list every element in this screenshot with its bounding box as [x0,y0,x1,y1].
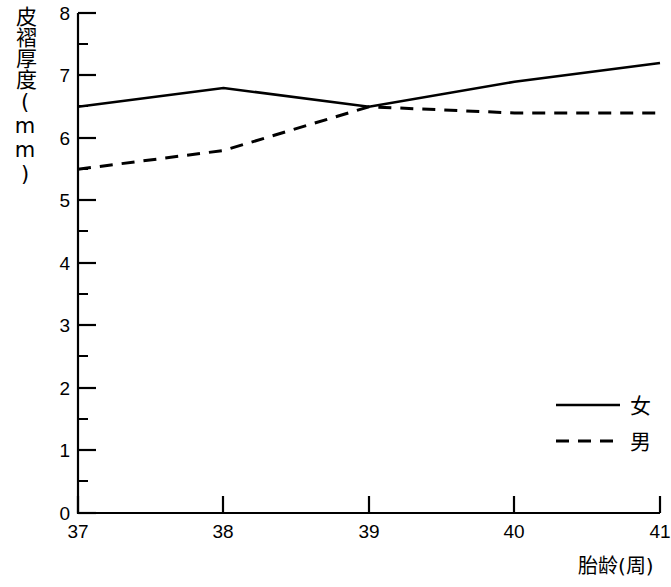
y-tick-label: 6 [59,128,70,149]
y-tick-label: 5 [59,190,70,211]
y-tick-label: 7 [59,65,70,86]
y-tick-label: 3 [59,315,70,336]
x-tick-label: 39 [358,521,379,542]
x-axis-major-ticks [78,496,660,513]
y-tick-label: 4 [59,253,70,274]
x-tick-label: 40 [503,521,524,542]
line-chart-plot: 8 7 6 5 4 3 2 1 0 37 38 39 40 41 [0,0,671,587]
series-line-female [78,63,660,107]
x-axis-tick-labels: 37 38 39 40 41 [67,521,670,542]
figure-container: 皮褶厚度(mm) 胎龄(周) 8 [0,0,671,587]
y-axis-major-ticks [78,13,96,513]
x-tick-label: 41 [649,521,670,542]
x-tick-label: 37 [67,521,88,542]
legend-label-male: 男 [630,430,651,454]
series-line-male [78,107,660,170]
y-tick-label: 2 [59,378,70,399]
y-tick-label: 8 [59,3,70,24]
x-tick-label: 38 [212,521,233,542]
y-tick-label: 1 [59,440,70,461]
legend-label-female: 女 [630,394,651,418]
y-axis-tick-labels: 8 7 6 5 4 3 2 1 0 [59,3,70,524]
legend: 女 男 [556,394,651,454]
axis-lines [78,13,660,513]
